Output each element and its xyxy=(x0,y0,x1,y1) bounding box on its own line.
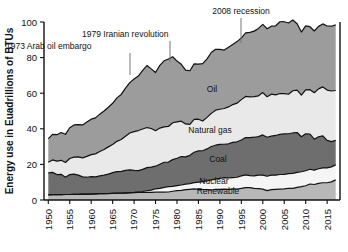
energy-use-stacked-area-chart: 020406080100 195019551960196519701975198… xyxy=(0,0,348,252)
series-label-nuclear: Nuclear xyxy=(199,176,228,186)
x-tick-label: 1965 xyxy=(107,209,118,230)
x-tick-label: 1995 xyxy=(236,209,247,230)
y-tick-label: 20 xyxy=(26,159,37,170)
y-tick-label: 100 xyxy=(21,17,37,28)
series-label-renewable: Renewable xyxy=(197,186,240,196)
x-tick-label: 2015 xyxy=(322,209,333,230)
y-tick-label: 80 xyxy=(26,52,37,63)
series-label-natural-gas: Natural gas xyxy=(188,125,231,135)
x-tick-label: 1985 xyxy=(193,209,204,230)
annotation-label: 2008 recession xyxy=(212,6,270,16)
x-tick-label: 1980 xyxy=(171,209,182,230)
y-axis-title: Energy use in Euadrillions of BTUs xyxy=(4,27,15,194)
y-tick-label: 60 xyxy=(26,88,37,99)
annotation-label: 1973 Arab oil embargo xyxy=(6,41,92,51)
x-tick-label: 2005 xyxy=(279,209,290,230)
y-tick-label: 40 xyxy=(26,123,37,134)
x-tick-label: 1960 xyxy=(86,209,97,230)
series-label-oil: Oil xyxy=(207,84,218,94)
y-tick-label: 0 xyxy=(32,195,37,206)
x-tick-label: 1950 xyxy=(43,209,54,230)
series-label-coal: Coal xyxy=(209,154,227,164)
x-tick-label: 1990 xyxy=(214,209,225,230)
x-tick-label: 2010 xyxy=(300,209,311,230)
chart-canvas: 020406080100 195019551960196519701975198… xyxy=(0,0,348,252)
annotation-label: 1979 Iranian revolution xyxy=(82,29,169,39)
x-tick-label: 1955 xyxy=(64,209,75,230)
x-tick-label: 1970 xyxy=(128,209,139,230)
x-tick-label: 1975 xyxy=(150,209,161,230)
x-tick-label: 2000 xyxy=(257,209,268,230)
